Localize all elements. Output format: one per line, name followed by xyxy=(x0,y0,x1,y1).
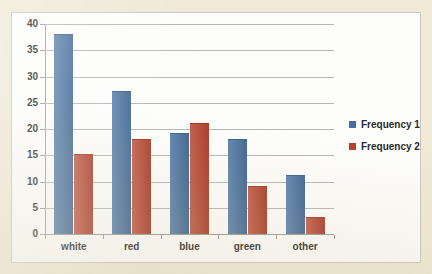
bar-group xyxy=(286,24,325,234)
bar xyxy=(248,186,267,234)
bar-group xyxy=(228,24,267,234)
y-axis-tick-label: 10 xyxy=(14,177,38,187)
gridline xyxy=(45,234,334,235)
bar xyxy=(228,139,247,235)
chart-plot-wrapper: 0510152025303540 whiteredbluegreenother … xyxy=(12,13,422,264)
legend-swatch-icon xyxy=(349,143,356,150)
legend-swatch-icon xyxy=(349,121,356,128)
x-axis-tick-mark xyxy=(103,235,104,239)
y-axis-tick-labels: 0510152025303540 xyxy=(12,13,38,264)
x-axis-tick-mark xyxy=(334,235,335,239)
y-axis-tick-label: 25 xyxy=(14,98,38,108)
legend-item: Frequency 1 xyxy=(349,116,420,133)
chart-card: 0510152025303540 whiteredbluegreenother … xyxy=(11,12,421,263)
x-axis-tick-mark xyxy=(218,235,219,239)
y-axis-tick-label: 35 xyxy=(14,45,38,55)
y-axis-tick-label: 20 xyxy=(14,124,38,134)
y-axis-tick-label: 40 xyxy=(14,19,38,29)
bar xyxy=(170,133,189,234)
bar xyxy=(74,154,93,234)
bar-group xyxy=(170,24,209,234)
x-axis-tick-mark xyxy=(161,235,162,239)
legend-label: Frequency 2 xyxy=(361,142,420,152)
chart-legend: Frequency 1Frequency 2 xyxy=(349,116,420,160)
bar-group xyxy=(112,24,151,234)
y-axis-tick-label: 0 xyxy=(14,229,38,239)
bar xyxy=(112,91,131,234)
x-axis-tick-label: other xyxy=(270,242,340,252)
bar xyxy=(190,123,209,234)
bar-group xyxy=(54,24,93,234)
x-axis-tick-mark xyxy=(276,235,277,239)
bar xyxy=(54,34,73,235)
x-axis-tick-mark xyxy=(45,235,46,239)
y-axis-tick-label: 30 xyxy=(14,72,38,82)
bar xyxy=(306,217,325,234)
plot-area xyxy=(45,24,334,234)
bar xyxy=(132,139,151,235)
legend-label: Frequency 1 xyxy=(361,120,420,130)
bar xyxy=(286,175,305,234)
y-axis-tick-label: 15 xyxy=(14,150,38,160)
y-axis-tick-label: 5 xyxy=(14,203,38,213)
legend-item: Frequency 2 xyxy=(349,138,420,155)
